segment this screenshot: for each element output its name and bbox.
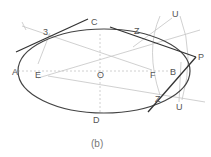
label-a: A [12,68,18,77]
construction-line-6 [179,62,181,102]
label-u-top: U [172,10,179,19]
tangent-line-left [16,19,88,52]
label-o: O [97,71,104,80]
label-c: C [91,18,98,27]
figure-caption: (b) [91,139,103,149]
diagram-canvas [0,0,211,157]
label-b: B [170,68,176,77]
label-u-bottom: U [176,103,183,112]
label-d: D [93,116,100,125]
label-e: E [35,71,41,80]
label-f: F [150,71,156,80]
ellipse-tangent-diagram: 3 C Z U P A E O F B Z U D (b) [0,0,211,157]
label-p: P [198,53,204,62]
label-z-bottom: Z [155,95,161,104]
label-z-top: Z [134,27,140,36]
label-3: 3 [43,28,48,37]
